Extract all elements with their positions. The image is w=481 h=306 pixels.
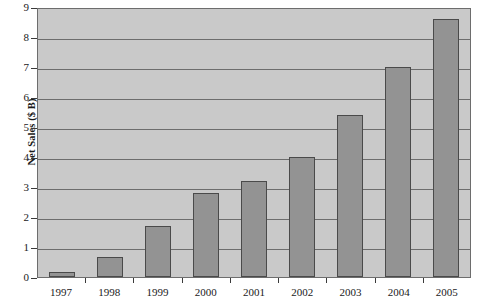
bar-1997[interactable]	[49, 272, 75, 277]
x-axis-tick-mark	[375, 278, 376, 283]
bar-2000[interactable]	[193, 193, 219, 277]
bar-slot	[230, 9, 278, 277]
y-axis-tick-label: 3	[7, 182, 29, 193]
y-axis-tick-label: 5	[7, 122, 29, 133]
bar-2003[interactable]	[337, 115, 363, 277]
x-axis-label-2003: 2003	[326, 285, 374, 301]
bar-slot	[182, 9, 230, 277]
bar-slot	[374, 9, 422, 277]
x-axis-label-1998: 1998	[85, 285, 133, 301]
y-axis-tick-label: 8	[7, 32, 29, 43]
bar-2002[interactable]	[289, 157, 315, 277]
x-axis-label-2000: 2000	[182, 285, 230, 301]
bar-chart: Net Sales ($ B) 9876543210 1997199819992…	[0, 0, 481, 306]
bar-slot	[38, 9, 86, 277]
bar-2005[interactable]	[433, 19, 459, 277]
bar-2001[interactable]	[241, 181, 267, 277]
y-axis-tick-label: 1	[7, 242, 29, 253]
bar-1998[interactable]	[97, 257, 123, 277]
y-axis-tick-label: 2	[7, 212, 29, 223]
bar-1999[interactable]	[145, 226, 171, 277]
bar-2004[interactable]	[385, 67, 411, 277]
x-axis-tick-labels: 199719981999200020012002200320042005	[37, 285, 471, 301]
bar-slot	[422, 9, 470, 277]
x-axis-label-1999: 1999	[133, 285, 181, 301]
x-axis-tick-mark	[423, 278, 424, 283]
y-axis-tick-label: 7	[7, 62, 29, 73]
y-axis-tick-label: 6	[7, 92, 29, 103]
y-axis-tick-label: 0	[7, 272, 29, 283]
x-axis-tick-mark	[326, 278, 327, 283]
x-axis-tick-mark	[230, 278, 231, 283]
x-axis-tick-mark	[133, 278, 134, 283]
bar-series	[38, 9, 470, 277]
y-axis-tick-label: 9	[7, 2, 29, 13]
bar-slot	[86, 9, 134, 277]
y-axis-tick-label: 4	[7, 152, 29, 163]
bar-slot	[278, 9, 326, 277]
x-axis-label-2005: 2005	[423, 285, 471, 301]
x-axis-label-2004: 2004	[375, 285, 423, 301]
bar-slot	[326, 9, 374, 277]
x-axis-tick-mark	[85, 278, 86, 283]
x-axis-tick-mark	[182, 278, 183, 283]
x-axis-tick-mark	[278, 278, 279, 283]
bar-slot	[134, 9, 182, 277]
plot-area	[37, 8, 471, 278]
x-axis-tick-marks	[37, 278, 471, 284]
x-axis-label-1997: 1997	[37, 285, 85, 301]
x-axis-label-2001: 2001	[230, 285, 278, 301]
x-axis-label-2002: 2002	[278, 285, 326, 301]
